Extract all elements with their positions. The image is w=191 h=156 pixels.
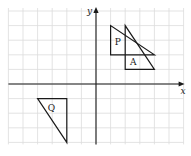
x-axis-label: x <box>181 86 186 96</box>
triangle-label: Q <box>48 103 55 113</box>
y-axis-label: y <box>86 6 93 16</box>
y-axis-arrow-icon <box>93 7 98 13</box>
triangle-label: A <box>129 57 137 67</box>
triangle-label: P <box>115 37 121 47</box>
coordinate-diagram: x y PAQ <box>0 0 191 156</box>
axes: x y <box>8 6 185 144</box>
